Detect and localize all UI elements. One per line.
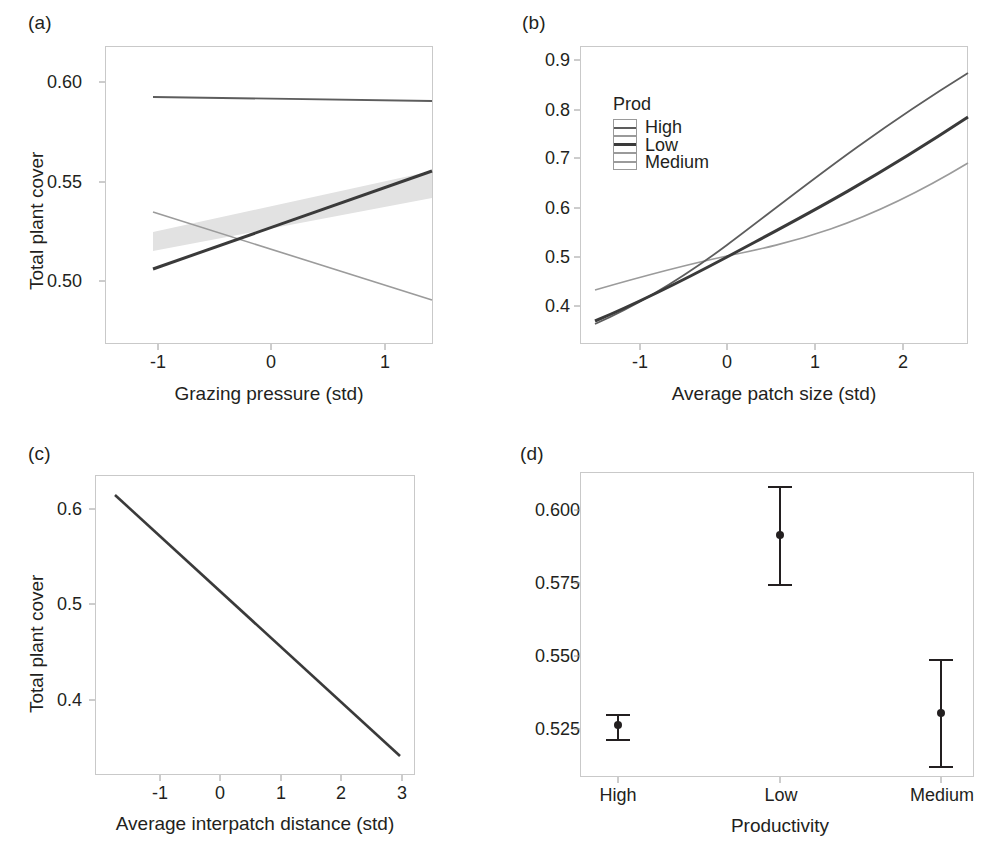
panel-d-point-low <box>776 531 784 539</box>
panel-d-point-medium <box>937 709 945 717</box>
panel-d-xtick-medium: Medium <box>895 785 989 806</box>
panel-d-xtick-high: High <box>583 785 653 806</box>
panel-d-ticks <box>574 510 941 783</box>
panel-d-point-high <box>614 721 622 729</box>
panel-d-xtick-low: Low <box>748 785 814 806</box>
panel-d-canvas <box>0 0 1001 863</box>
panel-d-x-axis-title: Productivity <box>620 815 940 837</box>
